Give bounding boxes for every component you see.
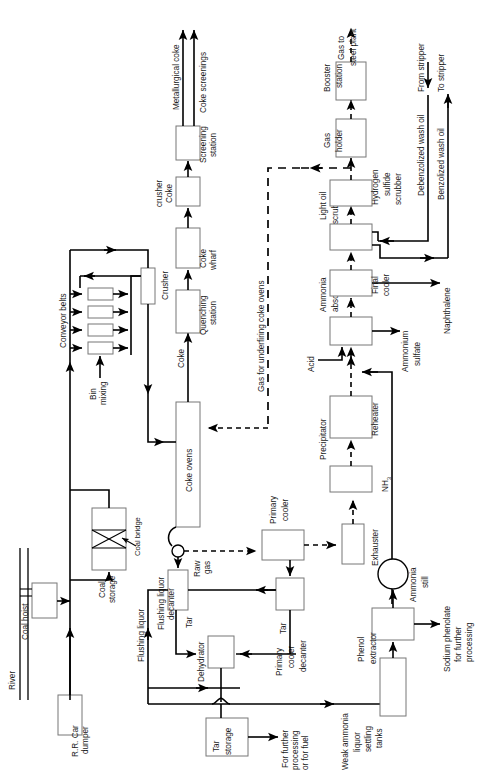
gas-to-steel-plant-label-1: Gas to [337,35,346,60]
coke-label: Coke [177,348,186,368]
raw-gas-label-2: gas [203,561,212,574]
reheater-box[interactable] [330,396,372,438]
quenching-station-label-1: Quenching [199,295,208,335]
precipitator-box[interactable] [330,466,372,492]
hydrogen-sulfide-scrubber-group[interactable]: Hydrogen sulfide scrubber [330,158,403,206]
primary-cooler-decanter-box[interactable] [276,578,304,610]
weak-ammonia-label-1: Weak ammonia [341,713,350,770]
further-processing-label-1: For further [281,730,290,768]
metallurgical-coke-label: Metallurgical coke [172,44,181,110]
booster-station-label-1: Booster [323,64,332,92]
coke-ovens-label: Coke ovens [185,449,194,492]
coke-crusher-label-1: Coke [165,183,174,203]
final-cooler-box[interactable] [330,270,372,296]
bin-box-4[interactable] [88,288,113,300]
booster-station-group[interactable]: Booster station Gas to steel plant [323,28,366,100]
primary-cooler-decanter-group[interactable]: Primary cooler decanter Tar [256,578,308,676]
rr-car-dumper-label-1: R.R. Car [71,725,80,757]
light-oil-scrubber-label-1: Light oil [319,192,328,220]
tar-storage-group[interactable]: Tar storage For further processing or fo… [206,704,310,770]
h2s-scrubber-label-1: Hydrogen [371,169,380,205]
light-oil-scrubber-box[interactable] [330,224,372,250]
gas-holder-group[interactable]: Gas holder [323,100,366,157]
flushing-liquor-decanter-group[interactable]: Flushing liquor decanter Flushing liquor… [137,570,296,688]
debenzolized-wash-oil-label: Debenzolized wash oil [417,114,426,196]
bin-box-1[interactable] [88,342,113,354]
conveyor-belts-label: Conveyor belts [59,293,68,348]
dehydrator-box[interactable] [208,636,234,668]
acid-label: Acid [307,356,316,372]
primary-cooler-label-1: Primary [269,495,278,524]
weak-ammonia-settling-tanks-box[interactable] [380,658,406,716]
coke-wharf-label-2: wharf [209,249,218,271]
screening-station-box[interactable] [176,126,200,160]
gas-to-steel-plant-label-2: steel plant [349,28,358,66]
process-flow-diagram: River R.R. Car dumper Coal hoist Coal st… [0,0,482,775]
tar-storage-label-1: Tar [212,740,221,752]
h2s-scrubber-label-3: scrubber [394,173,403,205]
ammonia-still-label-2: still [421,576,430,588]
ammonia-still-group[interactable]: Ammonia still [378,559,430,602]
primary-cooler-decanter-label-2: cooler [287,645,296,668]
crusher-box[interactable] [141,268,155,304]
h2s-scrubber-label-2: sulfide [383,172,392,196]
primary-cooler-decanter-label-3: decanter [299,640,308,672]
primary-cooler-group[interactable]: Primary cooler [262,495,336,576]
tar-storage-label-2: storage [224,727,233,755]
weak-ammonia-label-2: liquor [353,732,362,752]
crusher-group[interactable]: Crusher [70,250,170,394]
screening-station-label-1: Screening [199,126,208,163]
coke-wharf-label-1: Coke [199,248,208,268]
sodium-phenolate-label-1: Sodium phenolate [443,606,452,672]
benzolized-wash-oil-label: Benzolized wash oil [437,128,446,200]
phenol-extractor-label-1: Phenol [357,636,366,662]
weak-ammonia-label-3: settling [364,726,373,752]
ammonia-absorber-label-1: Ammonia [319,277,328,312]
further-processing-label-2: processing [291,730,300,770]
primary-cooler-decanter-label-1: Primary [275,647,284,676]
gas-holder-label-2: holder [335,129,344,152]
coke-crusher-label-2: crusher [155,179,164,207]
phenol-extractor-box[interactable] [372,608,414,640]
rr-car-dumper-label-2: dumper [81,726,90,754]
coal-storage-group[interactable]: Coal storage Coal bridge [70,490,142,603]
coke-ovens-group[interactable]: Coke ovens Coke [148,333,268,568]
coal-bridge-label: Coal bridge [133,517,142,556]
dehydrator-label: Dehydrator [197,641,206,682]
coke-wharf-box[interactable] [176,228,200,268]
weak-ammonia-line [148,688,380,704]
reheater-group[interactable]: Reheater [330,356,380,438]
coke-screenings-label: Coke screenings [199,52,208,113]
primary-cooler-box[interactable] [262,530,304,560]
exhauster-box[interactable] [342,524,364,564]
weak-ammonia-label-4: tanks [375,728,384,748]
flushing-liquor-decanter-label-1: Flushing liquor [157,576,166,630]
flushing-liquor-label: Flushing liquor [137,608,146,662]
ammonia-still-vessel[interactable] [378,559,408,589]
sodium-phenolate-label-2: for further [454,626,463,662]
rr-car-dumper-group[interactable]: R.R. Car dumper [58,628,90,757]
final-cooler-label-2: cooler [382,273,391,296]
coal-hoist-label: Coal hoist [21,603,30,640]
hydrogen-sulfide-scrubber-box[interactable] [330,180,372,206]
ammonia-still-label-1: Ammonia [409,567,418,602]
further-processing-label-3: or for fuel [301,735,310,770]
gas-underfiring-label: Gas for underfiring coke ovens [257,281,266,393]
exhauster-group[interactable]: Exhauster [342,500,380,566]
naphthalene-label: Naphthalene [443,287,452,334]
quenching-station-box[interactable] [176,290,200,333]
coal-hoist-box[interactable] [32,583,57,618]
coke-crusher-box[interactable] [176,177,200,206]
ammonium-sulfate-label-1: Ammonium [401,330,410,372]
ammonia-absorber-box[interactable] [330,317,372,345]
booster-station-label-2: station [335,63,344,88]
conveyor-bins-group: Bin mixing Conveyor belts [59,250,152,405]
coal-storage-label-1: Coal [98,581,107,598]
bin-box-3[interactable] [88,306,113,318]
raw-gas-group: Raw gas [184,551,256,577]
bin-box-2[interactable] [88,324,113,336]
gooseneck-valve [172,545,184,557]
reheater-label: Reheater [371,402,380,436]
tar-label-2: Tar [279,622,288,634]
crusher-label: Crusher [161,271,170,300]
